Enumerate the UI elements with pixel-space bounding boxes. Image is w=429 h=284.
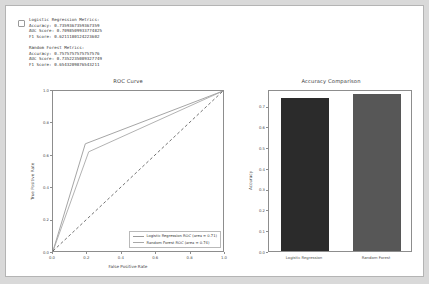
roc-y-tick-mark bbox=[50, 90, 52, 91]
bar-y-tick-label: 0.6 bbox=[254, 125, 265, 130]
bar-logistic-regression bbox=[281, 98, 329, 251]
roc-y-tick-label: 0.0 bbox=[38, 250, 49, 255]
bar-y-tick-mark bbox=[266, 231, 268, 232]
logistic-regression-metrics-line-2: AUC Score: 0.7098509933774825 bbox=[29, 28, 102, 34]
legend-label-random-forest: Random Forest ROC (area = 0.74) bbox=[147, 241, 210, 245]
roc-legend: Logistic Regression ROC (area = 0.71) Ra… bbox=[129, 231, 222, 248]
bar-y-tick-mark bbox=[266, 210, 268, 211]
roc-x-tick-mark bbox=[121, 252, 122, 254]
roc-y-tick-label: 0.2 bbox=[38, 217, 49, 222]
legend-label-logistic-regression: Logistic Regression ROC (area = 0.71) bbox=[147, 234, 218, 238]
roc-x-tick-label: 0.6 bbox=[149, 255, 161, 260]
random-forest-metrics-line-3: F1 Score: 0.6543209876543211 bbox=[29, 62, 102, 68]
roc-y-tick-label: 0.6 bbox=[38, 153, 49, 158]
metrics-output-block: Logistic Regression Metrics: Accuracy: 0… bbox=[18, 17, 258, 67]
logistic-regression-metrics-line-0: Logistic Regression Metrics: bbox=[29, 17, 102, 23]
roc-x-tick-mark bbox=[224, 252, 225, 254]
logistic-regression-metrics-line-3: F1 Score: 0.6211180124223602 bbox=[29, 34, 102, 40]
bar-y-tick-label: 0.5 bbox=[254, 146, 265, 151]
random-forest-metrics-line-2: AUC Score: 0.7352235089327749 bbox=[29, 56, 102, 62]
bar-chart-title: Accuracy Comparison bbox=[242, 78, 420, 84]
bar-category-label: Logistic Regression bbox=[268, 255, 340, 260]
roc-x-tick-mark bbox=[190, 252, 191, 254]
roc-y-tick-mark bbox=[50, 155, 52, 156]
roc-x-tick-mark bbox=[52, 252, 53, 254]
bar-y-tick-mark bbox=[266, 190, 268, 191]
bar-y-tick-mark bbox=[266, 148, 268, 149]
metrics-text-group: Logistic Regression Metrics: Accuracy: 0… bbox=[29, 17, 102, 67]
roc-curve-figure: ROC Curve True Positive Rate False Posit… bbox=[24, 78, 232, 274]
bar-y-tick-label: 0.2 bbox=[254, 208, 265, 213]
roc-x-tick-mark bbox=[86, 252, 87, 254]
roc-y-tick-label: 0.8 bbox=[38, 120, 49, 125]
roc-y-axis-label: True Positive Rate bbox=[30, 163, 35, 200]
bar-y-tick-mark bbox=[266, 107, 268, 108]
roc-plot-area: Logistic Regression ROC (area = 0.71) Ra… bbox=[52, 90, 224, 252]
bar-y-tick-label: 0.7 bbox=[254, 104, 265, 109]
roc-x-axis-label: False Positive Rate bbox=[24, 264, 232, 269]
roc-x-tick-mark bbox=[155, 252, 156, 254]
bar-y-tick-label: 0.1 bbox=[254, 229, 265, 234]
roc-x-tick-label: 0.8 bbox=[184, 255, 196, 260]
roc-x-tick-label: 0.0 bbox=[46, 255, 58, 260]
bar-y-axis-label: Accuracy bbox=[248, 171, 253, 190]
legend-swatch-random-forest bbox=[133, 242, 144, 243]
bar-random-forest bbox=[353, 94, 401, 251]
roc-y-tick-label: 1.0 bbox=[38, 88, 49, 93]
roc-curves-svg bbox=[53, 91, 223, 251]
roc-x-tick-label: 0.4 bbox=[115, 255, 127, 260]
accuracy-comparison-figure: Accuracy Comparison Accuracy Logistic Re… bbox=[242, 78, 420, 274]
roc-y-tick-mark bbox=[50, 187, 52, 188]
roc-y-tick-mark bbox=[50, 252, 52, 253]
legend-item-random-forest: Random Forest ROC (area = 0.74) bbox=[133, 241, 218, 245]
bar-plot-area bbox=[268, 90, 412, 252]
roc-x-tick-label: 1.0 bbox=[218, 255, 230, 260]
bar-y-tick-label: 0.3 bbox=[254, 187, 265, 192]
roc-y-tick-mark bbox=[50, 122, 52, 123]
legend-item-logistic-regression: Logistic Regression ROC (area = 0.71) bbox=[133, 234, 218, 238]
roc-series-2 bbox=[53, 91, 223, 251]
roc-y-tick-label: 0.4 bbox=[38, 185, 49, 190]
bar-y-tick-mark bbox=[266, 127, 268, 128]
bar-y-tick-label: 0.4 bbox=[254, 167, 265, 172]
roc-chart-title: ROC Curve bbox=[24, 78, 232, 84]
output-marker-icon bbox=[18, 20, 25, 27]
notebook-output-page: Logistic Regression Metrics: Accuracy: 0… bbox=[0, 0, 429, 284]
bar-y-tick-mark bbox=[266, 169, 268, 170]
legend-swatch-logistic-regression bbox=[133, 236, 144, 237]
bar-y-tick-mark bbox=[266, 252, 268, 253]
roc-x-tick-label: 0.2 bbox=[80, 255, 92, 260]
roc-y-tick-mark bbox=[50, 220, 52, 221]
output-card: Logistic Regression Metrics: Accuracy: 0… bbox=[5, 5, 424, 277]
bar-category-label: Random Forest bbox=[340, 255, 412, 260]
bar-y-tick-label: 0.0 bbox=[254, 250, 265, 255]
